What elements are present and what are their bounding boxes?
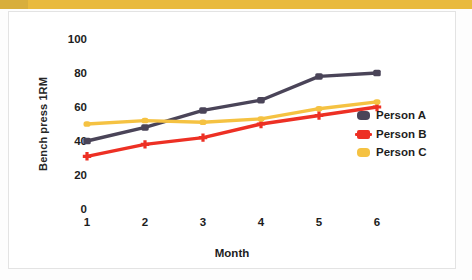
legend-item-person-c[interactable]: Person C: [357, 147, 427, 159]
legend-item-label: Person A: [376, 110, 426, 122]
chart-screenshot: Bench press 1RM 020406080100 123456 Mont…: [0, 0, 472, 280]
legend-color-swatch: [357, 130, 370, 139]
legend-color-swatch: [357, 148, 370, 157]
x-tick-label: 6: [365, 216, 389, 228]
legend-item-label: Person B: [376, 129, 427, 141]
plot-area: Bench press 1RM 020406080100 123456 Mont…: [9, 12, 457, 270]
x-tick-label: 2: [133, 216, 157, 228]
x-axis-ticks: 123456: [87, 12, 377, 270]
legend-item-person-a[interactable]: Person A: [357, 110, 427, 122]
legend-color-swatch: [357, 111, 370, 120]
legend-item-person-b[interactable]: Person B: [357, 129, 427, 141]
x-tick-label: 5: [307, 216, 331, 228]
chart-legend: Person APerson BPerson C: [357, 110, 427, 159]
top-accent-band-shade: [0, 0, 28, 9]
x-axis-title: Month: [87, 247, 377, 259]
x-tick-label: 3: [191, 216, 215, 228]
top-accent-band: [0, 0, 472, 9]
x-tick-label: 1: [75, 216, 99, 228]
legend-item-label: Person C: [376, 147, 427, 159]
x-tick-label: 4: [249, 216, 273, 228]
chart-card: Bench press 1RM 020406080100 123456 Mont…: [8, 11, 456, 269]
